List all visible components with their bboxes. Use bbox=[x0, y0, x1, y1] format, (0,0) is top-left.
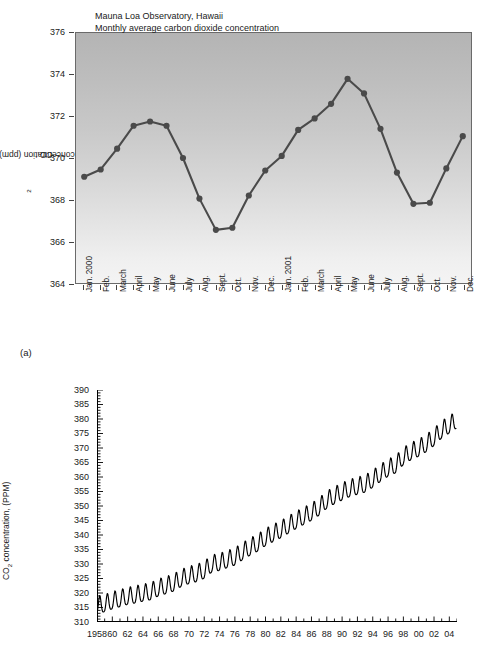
figure-a-y-tick-mark bbox=[69, 158, 74, 159]
figure-b-x-tick: 88 bbox=[319, 630, 335, 639]
figure-a-data-point bbox=[279, 153, 285, 159]
figure-a-x-tick-mark bbox=[232, 285, 233, 290]
figure-a-data-point bbox=[377, 126, 383, 132]
figure-a-x-tick-mark bbox=[331, 285, 332, 290]
figure-a-x-tick: March bbox=[318, 269, 326, 292]
figure-b-x-tick: 02 bbox=[426, 630, 442, 639]
figure-a-data-point bbox=[394, 170, 400, 176]
figure-a-y-tick-mark bbox=[69, 74, 74, 75]
figure-b-x-tick: 92 bbox=[349, 630, 365, 639]
figure-a-x-tick-mark bbox=[464, 285, 465, 290]
figure-a-x-tick: April bbox=[136, 276, 144, 292]
figure-a-x-tick-mark bbox=[166, 285, 167, 290]
figure-b-y-tick: 390 bbox=[63, 386, 89, 395]
figure-a-data-point bbox=[344, 76, 350, 82]
figure-a-x-tick: Nov. bbox=[450, 276, 458, 292]
figure-a-y-axis-label: CO2 concentration (ppm) bbox=[18, 75, 34, 235]
figure-a-x-tick-mark bbox=[282, 285, 283, 290]
figure-a-x-tick: Oct. bbox=[235, 277, 243, 292]
figure-a-x-tick-mark bbox=[183, 285, 184, 290]
figure-a-data-point bbox=[131, 123, 137, 129]
figure-b-y-axis-label: CO2 concentration, (PPM) bbox=[28, 445, 44, 615]
figure-a-x-tick: Feb. bbox=[103, 276, 111, 292]
figure-b-y-tick: 380 bbox=[63, 415, 89, 424]
figure-b-plot-area bbox=[97, 390, 457, 622]
figure-a-y-tick: 366 bbox=[39, 238, 65, 247]
figure-a-x-tick: Dec. bbox=[268, 275, 276, 292]
figure-b-x-tick: 78 bbox=[242, 630, 258, 639]
figure-a-plot-area bbox=[75, 32, 472, 284]
figure-b-title-line2: Monthly average carbon dioxide concentra… bbox=[95, 22, 279, 34]
figure-b-x-tick: 64 bbox=[135, 630, 151, 639]
figure-a-y-tick-mark bbox=[69, 284, 74, 285]
figure-b-y-tick: 360 bbox=[63, 473, 89, 482]
figure-a-y-tick: 364 bbox=[39, 280, 65, 289]
figure-a-data-point bbox=[410, 201, 416, 207]
figure-b-x-tick: 74 bbox=[212, 630, 228, 639]
figure-a-y-tick: 374 bbox=[39, 70, 65, 79]
figure-b-x-tick: 72 bbox=[196, 630, 212, 639]
figure-b-y-tick: 340 bbox=[63, 531, 89, 540]
figure-a-x-tick-mark bbox=[216, 285, 217, 290]
figure-b-y-tick: 325 bbox=[63, 574, 89, 583]
figure-a-x-tick: Aug. bbox=[202, 275, 210, 292]
figure-a-x-tick-mark bbox=[315, 285, 316, 290]
figure-a-data-point bbox=[98, 166, 104, 172]
figure-b-y-tick: 335 bbox=[63, 545, 89, 554]
figure-b-title: Mauna Loa Observatory, Hawaii Monthly av… bbox=[95, 10, 279, 34]
figure-a-x-tick-mark bbox=[414, 285, 415, 290]
figure-a-y-tick-mark bbox=[69, 200, 74, 201]
figure-b-y-tick: 310 bbox=[63, 618, 89, 627]
figure-a-x-tick: Dec. bbox=[467, 275, 475, 292]
figure-a-data-point bbox=[361, 90, 367, 96]
figure-b-x-tick: 76 bbox=[227, 630, 243, 639]
figure-b-x-tick: 86 bbox=[303, 630, 319, 639]
figure-a-data-point bbox=[180, 155, 186, 161]
figure-b-y-tick: 365 bbox=[63, 458, 89, 467]
figure-a-x-tick: April bbox=[335, 276, 343, 292]
figure-b-y-tick: 320 bbox=[63, 589, 89, 598]
figure-a-x-tick: June bbox=[368, 274, 376, 292]
figure-a-x-tick-mark bbox=[149, 285, 150, 290]
figure-b-title-line1: Mauna Loa Observatory, Hawaii bbox=[95, 10, 279, 22]
figure-b-x-tick: 62 bbox=[120, 630, 136, 639]
figure-a-data-point bbox=[81, 174, 87, 180]
figure-b-x-tick: 80 bbox=[258, 630, 274, 639]
figure-b-x-tick: 00 bbox=[411, 630, 427, 639]
figure-b-x-tick: 84 bbox=[288, 630, 304, 639]
figure-a-data-point bbox=[114, 146, 120, 152]
figure-a-x-tick: May bbox=[153, 277, 161, 292]
figure-a-panel-label: (a) bbox=[20, 347, 32, 358]
figure-a-x-tick: Sept. bbox=[219, 273, 227, 292]
figure-a-y-tick: 368 bbox=[39, 196, 65, 205]
figure-b-x-tick: 90 bbox=[334, 630, 350, 639]
figure-a-y-tick: 372 bbox=[39, 112, 65, 121]
figure-b-x-tick: 70 bbox=[181, 630, 197, 639]
figure-a-x-tick-mark bbox=[348, 285, 349, 290]
figure-a-x-tick-mark bbox=[199, 285, 200, 290]
figure-a-x-tick-mark bbox=[364, 285, 365, 290]
figure-a-data-point bbox=[443, 165, 449, 171]
figure-a-x-tick: May bbox=[351, 277, 359, 292]
figure-a-data-point bbox=[163, 123, 169, 129]
figure-a-y-tick-mark bbox=[69, 32, 74, 33]
figure-b-x-tick: 98 bbox=[395, 630, 411, 639]
figure-b-y-tick: 315 bbox=[63, 603, 89, 612]
figure-a-data-point bbox=[295, 127, 301, 133]
figure-a-x-tick-mark bbox=[133, 285, 134, 290]
figure-b-x-tick: 66 bbox=[150, 630, 166, 639]
figure-a-data-point bbox=[262, 167, 268, 173]
figure-b-y-tick: 330 bbox=[63, 560, 89, 569]
figure-a-data-point bbox=[427, 200, 433, 206]
figure-a-line-path bbox=[84, 79, 463, 230]
figure-a-x-tick-mark bbox=[249, 285, 250, 290]
figure-a-y-tick-mark bbox=[69, 116, 74, 117]
figure-b-y-tick: 370 bbox=[63, 444, 89, 453]
figure-a-x-tick-mark bbox=[298, 285, 299, 290]
figure-a-x-tick: Jan. 2000 bbox=[86, 256, 94, 292]
figure-a-x-tick-mark bbox=[381, 285, 382, 290]
figure-b-x-tick: 82 bbox=[273, 630, 289, 639]
figure-a-x-tick: June bbox=[169, 274, 177, 292]
figure-a-data-point bbox=[312, 115, 318, 121]
figure-b-y-tick: 355 bbox=[63, 487, 89, 496]
